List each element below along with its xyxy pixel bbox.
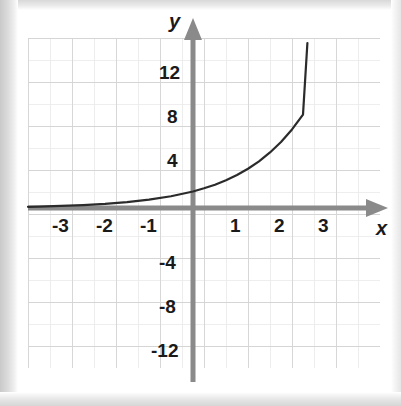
x-tick-label-3: 3 [318, 216, 329, 235]
frame-edge-right [391, 0, 401, 406]
y-tick-label-4: 4 [167, 151, 178, 170]
grid-major [28, 38, 380, 368]
x-tick-label-neg2: -2 [96, 216, 113, 235]
y-tick-label-neg8: -8 [159, 297, 176, 316]
x-tick-label-neg1: -1 [140, 216, 157, 235]
frame-edge-top [0, 0, 401, 10]
y-tick-label-12: 12 [159, 63, 180, 82]
coordinate-plane-svg [18, 10, 390, 392]
x-tick-label-1: 1 [230, 216, 241, 235]
frame-edge-left [0, 0, 18, 406]
plot-area: y x -3 -2 -1 1 2 3 12 8 4 -4 -8 -12 [18, 10, 390, 392]
y-tick-label-8: 8 [167, 107, 178, 126]
y-tick-label-neg4: -4 [159, 253, 176, 272]
y-axis-label: y [169, 11, 180, 31]
x-tick-label-2: 2 [274, 216, 285, 235]
graph-figure: y x -3 -2 -1 1 2 3 12 8 4 -4 -8 -12 [0, 0, 401, 406]
frame-edge-bottom [0, 392, 401, 406]
x-axis-label: x [376, 218, 387, 238]
x-tick-label-neg3: -3 [52, 216, 69, 235]
y-tick-label-neg12: -12 [151, 341, 178, 360]
